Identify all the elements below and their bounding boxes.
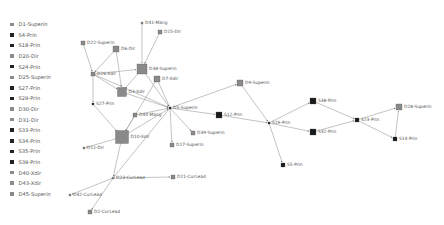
- nodes-layer: D41-MangD15-DirD22-SuperinD6-DirD38-Supe…: [69, 20, 432, 214]
- edge: [83, 43, 92, 71]
- graph-node[interactable]: D39-Superin: [191, 130, 225, 135]
- graph-node[interactable]: D28-Superin: [396, 104, 432, 110]
- node-label: D44-Mang: [139, 112, 162, 117]
- node-label: D17-Superin: [176, 142, 204, 147]
- node-square-icon: [88, 210, 92, 214]
- graph-node[interactable]: D42-CurLead: [69, 192, 102, 197]
- node-label: D26-Xdir: [97, 71, 116, 76]
- node-label: D9-Superin: [245, 80, 270, 85]
- graph-node[interactable]: D6-Dir: [113, 46, 135, 52]
- node-square-icon: [393, 137, 397, 141]
- graph-node[interactable]: D17-Superin: [170, 142, 204, 147]
- node-label: D5-Superin: [173, 105, 198, 110]
- node-label: D41-Mang: [145, 20, 168, 25]
- graph-node[interactable]: D5-Superin: [169, 105, 198, 110]
- graph-node[interactable]: D2-CurLead: [88, 209, 120, 214]
- node-square-icon: [170, 143, 174, 147]
- graph-node[interactable]: D22-Superin: [81, 40, 115, 45]
- edge: [126, 115, 135, 131]
- graph-node[interactable]: D23-CurLead: [112, 175, 145, 180]
- graph-node[interactable]: D10-Xdir: [116, 131, 150, 144]
- node-label: D11-Dir: [87, 145, 104, 150]
- node-square-icon: [112, 177, 114, 179]
- node-label: D21-CurLead: [177, 174, 206, 179]
- node-square-icon: [281, 163, 285, 167]
- graph-node[interactable]: D26-Xdir: [91, 71, 116, 76]
- node-square-icon: [169, 107, 171, 109]
- edge: [170, 108, 172, 142]
- node-label: D42-CurLead: [73, 192, 102, 197]
- node-label: D39-Superin: [197, 130, 225, 135]
- graph-node[interactable]: D41-Mang: [141, 20, 168, 25]
- graph-node[interactable]: S38-Prin: [310, 98, 337, 104]
- graph-node[interactable]: S5-Prin: [281, 162, 303, 167]
- node-label: D15-Dir: [164, 29, 181, 34]
- node-square-icon: [92, 103, 94, 105]
- node-label: S38-Prin: [318, 98, 337, 103]
- graph-node[interactable]: S14-Prin: [393, 136, 418, 141]
- edge: [116, 49, 121, 87]
- node-square-icon: [310, 129, 316, 135]
- node-square-icon: [133, 113, 137, 117]
- node-square-icon: [118, 88, 127, 97]
- node-square-icon: [191, 131, 195, 135]
- graph-node[interactable]: S19-Prin: [268, 120, 291, 125]
- node-label: S12-Prin: [224, 112, 243, 117]
- node-square-icon: [237, 80, 243, 86]
- node-label: D23-CurLead: [116, 175, 145, 180]
- node-label: D7-Xdir: [162, 76, 179, 81]
- node-square-icon: [116, 131, 129, 144]
- node-label: S19-Prin: [272, 120, 291, 125]
- graph-node[interactable]: D9-Superin: [237, 80, 270, 86]
- edge: [145, 32, 160, 64]
- graph-node[interactable]: D7-Xdir: [154, 76, 179, 82]
- node-label: D6-Dir: [121, 46, 135, 51]
- edge: [122, 92, 168, 107]
- node-label: S27-Prin: [96, 101, 115, 106]
- node-square-icon: [137, 64, 147, 74]
- node-square-icon: [81, 41, 85, 45]
- edge: [313, 101, 354, 119]
- node-square-icon: [113, 46, 119, 52]
- node-label: S5-Prin: [287, 162, 303, 167]
- node-square-icon: [216, 112, 222, 118]
- node-label: D2-CurLead: [94, 209, 120, 214]
- node-label: D38-Superin: [149, 66, 177, 71]
- node-label: D28-Superin: [404, 104, 432, 109]
- edge: [170, 108, 191, 131]
- graph-node[interactable]: S32-Prin: [310, 129, 337, 135]
- node-square-icon: [310, 98, 316, 104]
- node-label: D10-Xdir: [131, 134, 150, 139]
- node-square-icon: [141, 22, 143, 24]
- node-square-icon: [171, 175, 175, 179]
- network-graph: D41-MangD15-DirD22-SuperinD6-DirD38-Supe…: [0, 0, 444, 225]
- node-label: D22-Superin: [87, 40, 115, 45]
- node-label: S14-Prin: [399, 136, 418, 141]
- graph-node[interactable]: D21-CurLead: [171, 174, 206, 179]
- node-label: S23-Prin: [361, 117, 380, 122]
- graph-node[interactable]: D38-Superin: [137, 64, 177, 74]
- node-square-icon: [158, 30, 162, 34]
- node-square-icon: [355, 118, 359, 122]
- node-square-icon: [154, 76, 160, 82]
- edge: [142, 69, 169, 106]
- node-label: S32-Prin: [318, 129, 337, 134]
- graph-node[interactable]: S27-Prin: [92, 101, 115, 106]
- edge: [240, 83, 268, 121]
- node-square-icon: [396, 104, 402, 110]
- node-label: D3-Xdir: [129, 89, 146, 94]
- edge: [95, 49, 116, 72]
- node-square-icon: [69, 194, 71, 196]
- edge: [269, 123, 282, 162]
- edge: [395, 111, 399, 139]
- node-square-icon: [268, 122, 270, 124]
- node-square-icon: [91, 72, 95, 76]
- graph-node[interactable]: S23-Prin: [355, 117, 380, 122]
- node-square-icon: [83, 147, 85, 149]
- graph-node[interactable]: D15-Dir: [158, 29, 181, 34]
- graph-node[interactable]: D11-Dir: [83, 145, 104, 150]
- graph-node[interactable]: S12-Prin: [216, 112, 243, 118]
- edge: [93, 104, 117, 131]
- edge: [93, 74, 117, 89]
- edge: [357, 120, 392, 138]
